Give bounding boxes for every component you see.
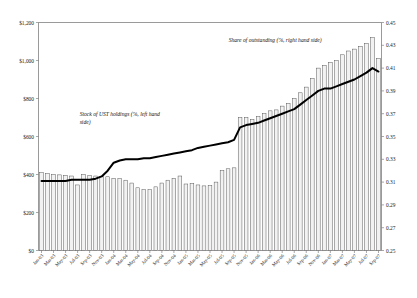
bar xyxy=(82,175,86,251)
left-axis-tick-label: $600 xyxy=(23,134,34,140)
left-axis-tick-label: $0 xyxy=(29,248,35,254)
bar xyxy=(232,168,236,251)
left-axis-tick-label: $200 xyxy=(23,210,34,216)
financial-dual-axis-chart: $0$200$400$600$800$1,000$1,200 0.250.270… xyxy=(0,0,417,298)
bars-annotation-line: side) xyxy=(80,119,91,126)
right-axis-tick-label: 0.33 xyxy=(386,156,396,162)
bar xyxy=(46,174,50,251)
bar xyxy=(160,183,164,250)
left-axis-tick-label: $1,000 xyxy=(19,58,34,64)
bar xyxy=(292,99,296,251)
bar xyxy=(268,111,272,251)
bar xyxy=(377,59,381,251)
bar xyxy=(142,190,146,251)
bar xyxy=(118,179,122,251)
bar xyxy=(274,110,278,251)
bar xyxy=(112,178,116,250)
right-axis-tick-label: 0.27 xyxy=(386,225,396,231)
bar xyxy=(286,103,290,250)
bar xyxy=(226,169,230,251)
bar xyxy=(238,118,242,251)
bar xyxy=(172,178,176,250)
bar xyxy=(322,65,326,250)
line-annotation: Share of outstanding (%, right hand side… xyxy=(229,37,322,44)
bar xyxy=(214,182,218,250)
right-axis-tick-label: 0.31 xyxy=(386,179,396,185)
right-axis-tick-label: 0.37 xyxy=(386,111,396,117)
bar xyxy=(244,118,248,251)
chart-container: $0$200$400$600$800$1,000$1,200 0.250.270… xyxy=(0,0,417,298)
right-axis-tick-label: 0.29 xyxy=(386,202,396,208)
bar xyxy=(178,176,182,250)
bar xyxy=(202,186,206,251)
left-axis-tick-label: $400 xyxy=(23,172,34,178)
bar xyxy=(304,87,308,250)
bar xyxy=(124,180,128,250)
bar xyxy=(70,176,74,250)
right-axis-tick-label: 0.45 xyxy=(386,20,396,26)
bar xyxy=(100,176,104,250)
bars-annotation-line: Stock of UST holdings (%, left hand xyxy=(80,111,160,118)
bar xyxy=(335,61,339,251)
right-axis-tick-label: 0.25 xyxy=(386,248,396,254)
bar xyxy=(148,190,152,251)
bar xyxy=(136,188,140,251)
right-axis-tick-label: 0.41 xyxy=(386,65,396,71)
bar xyxy=(208,186,212,251)
right-axis-tick-label: 0.39 xyxy=(386,88,396,94)
bar xyxy=(280,106,284,250)
left-axis-tick-label: $800 xyxy=(23,96,34,102)
bar xyxy=(166,180,170,250)
bar xyxy=(190,184,194,251)
bar xyxy=(88,175,92,250)
bar xyxy=(316,68,320,250)
bar xyxy=(130,183,134,250)
bar xyxy=(196,185,200,251)
bar xyxy=(52,175,56,251)
bar xyxy=(64,175,68,250)
right-axis-tick-label: 0.43 xyxy=(386,42,396,48)
bar xyxy=(94,176,98,250)
bar xyxy=(262,114,266,251)
bar xyxy=(250,119,254,250)
bar xyxy=(220,171,224,251)
bar xyxy=(310,79,314,251)
bar xyxy=(256,117,260,251)
bar xyxy=(298,93,302,251)
bar xyxy=(154,187,158,251)
bar xyxy=(40,173,44,251)
bar xyxy=(328,62,332,250)
bar xyxy=(58,175,62,251)
bar xyxy=(106,177,110,251)
bar xyxy=(76,185,80,251)
right-axis-tick-label: 0.35 xyxy=(386,134,396,140)
bar xyxy=(184,184,188,251)
left-axis-tick-label: $1,200 xyxy=(19,20,34,26)
